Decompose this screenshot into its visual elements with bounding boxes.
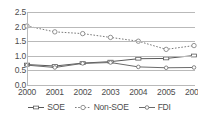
- data-point: [192, 43, 196, 47]
- data-point: [109, 61, 113, 65]
- x-axis-tick-label: 2000: [18, 87, 36, 97]
- data-point: [137, 65, 141, 69]
- y-axis-tick-label: 2.5: [15, 7, 26, 17]
- data-point: [53, 30, 57, 34]
- legend-marker-icon: [27, 103, 45, 112]
- gridline: [27, 41, 195, 42]
- x-axis-tick-label: 2004: [129, 87, 147, 97]
- x-axis-tick-label: 2003: [101, 87, 119, 97]
- data-point: [108, 35, 112, 39]
- gridline: [27, 12, 195, 13]
- gridline: [27, 27, 195, 28]
- chart-legend: SOENon-SOEFDI: [0, 100, 198, 114]
- data-point: [53, 66, 57, 70]
- data-point: [192, 66, 196, 70]
- y-axis-tick-label: 0.5: [15, 65, 26, 75]
- y-axis-line: [27, 12, 28, 85]
- legend-label: SOE: [47, 102, 64, 112]
- series-non-soe: [25, 24, 196, 52]
- legend-label: Non-SOE: [94, 102, 129, 112]
- y-axis: 0.00.51.01.52.02.5: [0, 0, 26, 116]
- data-point: [81, 62, 85, 66]
- gridline: [27, 56, 195, 57]
- data-point: [164, 57, 169, 60]
- legend-item-soe: SOE: [27, 102, 64, 112]
- data-point: [136, 57, 141, 60]
- legend-item-fdi: FDI: [138, 102, 171, 112]
- x-axis-tick-label: 2005: [157, 87, 175, 97]
- data-point: [164, 47, 168, 51]
- legend-marker-icon: [74, 103, 92, 112]
- y-axis-tick-label: 1.0: [15, 51, 26, 61]
- series-layer: [27, 12, 195, 85]
- chart-container: 0.00.51.01.52.02.5 200020012002200320042…: [0, 0, 198, 116]
- series-fdi: [25, 61, 196, 70]
- x-axis: 2000200120022003200420052006: [27, 86, 195, 98]
- x-axis-tick-label: 2006: [185, 87, 198, 97]
- legend-label: FDI: [158, 102, 171, 112]
- legend-item-non-soe: Non-SOE: [74, 102, 129, 112]
- plot-area: [27, 12, 195, 85]
- legend-marker-icon: [138, 103, 156, 112]
- x-axis-tick-label: 2001: [46, 87, 64, 97]
- data-point: [164, 66, 168, 70]
- data-point: [80, 31, 84, 35]
- gridline: [27, 70, 195, 71]
- y-axis-tick-label: 2.0: [15, 22, 26, 32]
- y-axis-tick-label: 1.5: [15, 36, 26, 46]
- x-axis-tick-label: 2002: [74, 87, 92, 97]
